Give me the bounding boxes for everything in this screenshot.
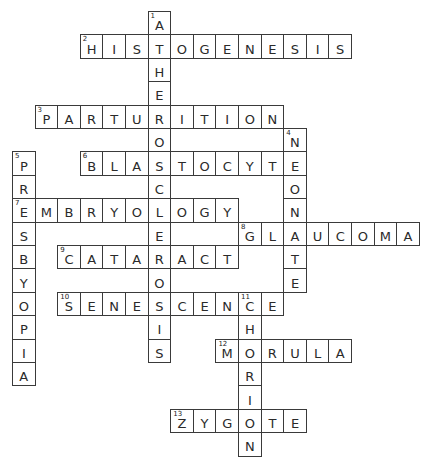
crossword-cell[interactable]: N	[238, 34, 262, 58]
crossword-cell[interactable]: E	[125, 292, 149, 316]
crossword-cell[interactable]: O	[170, 34, 194, 58]
crossword-cell[interactable]: S	[148, 292, 172, 316]
crossword-cell[interactable]: S	[283, 34, 307, 58]
crossword-cell[interactable]: S	[148, 151, 172, 175]
crossword-cell[interactable]: E	[283, 268, 307, 292]
crossword-cell[interactable]: U	[125, 105, 149, 129]
crossword-cell[interactable]: O	[351, 222, 375, 246]
crossword-cell[interactable]: G	[193, 34, 217, 58]
crossword-cell[interactable]: M	[374, 222, 398, 246]
crossword-cell[interactable]: N	[238, 432, 262, 456]
crossword-cell[interactable]: 10S	[57, 292, 81, 316]
crossword-cell[interactable]: O	[125, 198, 149, 222]
crossword-cell[interactable]: I	[102, 34, 126, 58]
crossword-cell[interactable]: 7E	[12, 198, 36, 222]
crossword-cell[interactable]: T	[193, 105, 217, 129]
crossword-cell[interactable]: B	[57, 198, 81, 222]
crossword-cell[interactable]: 1A	[148, 11, 172, 35]
crossword-cell[interactable]: E	[283, 151, 307, 175]
crossword-cell[interactable]: O	[148, 268, 172, 292]
crossword-cell[interactable]: O	[238, 409, 262, 433]
crossword-cell[interactable]: S	[125, 34, 149, 58]
crossword-cell[interactable]: E	[148, 81, 172, 105]
crossword-cell[interactable]: O	[148, 128, 172, 152]
crossword-cell[interactable]: A	[328, 339, 352, 363]
crossword-cell[interactable]: E	[261, 34, 285, 58]
crossword-cell[interactable]: A	[80, 245, 104, 269]
crossword-cell[interactable]: E	[80, 292, 104, 316]
crossword-cell[interactable]: I	[306, 34, 330, 58]
crossword-cell[interactable]: C	[193, 245, 217, 269]
crossword-cell[interactable]: E	[193, 292, 217, 316]
crossword-cell[interactable]: A	[170, 245, 194, 269]
crossword-cell[interactable]: I	[148, 315, 172, 339]
crossword-cell[interactable]: 6B	[80, 151, 104, 175]
crossword-cell[interactable]: C	[328, 222, 352, 246]
crossword-cell[interactable]: A	[125, 245, 149, 269]
crossword-cell[interactable]: L	[306, 339, 330, 363]
crossword-cell[interactable]: N	[102, 292, 126, 316]
crossword-cell[interactable]: R	[12, 175, 36, 199]
crossword-cell[interactable]: N	[261, 105, 285, 129]
crossword-cell[interactable]: M	[35, 198, 59, 222]
crossword-cell[interactable]: A	[125, 151, 149, 175]
crossword-cell[interactable]: G	[193, 198, 217, 222]
crossword-cell[interactable]: Y	[102, 198, 126, 222]
crossword-cell[interactable]: U	[283, 339, 307, 363]
crossword-cell[interactable]: C	[170, 292, 194, 316]
crossword-cell[interactable]: A	[396, 222, 420, 246]
crossword-cell[interactable]: O	[238, 339, 262, 363]
crossword-cell[interactable]: S	[12, 222, 36, 246]
crossword-cell[interactable]: H	[148, 58, 172, 82]
crossword-cell[interactable]: A	[57, 105, 81, 129]
crossword-cell[interactable]: B	[12, 245, 36, 269]
crossword-cell[interactable]: R	[80, 105, 104, 129]
crossword-cell[interactable]: P	[12, 315, 36, 339]
crossword-cell[interactable]: R	[261, 339, 285, 363]
crossword-cell[interactable]: U	[306, 222, 330, 246]
crossword-cell[interactable]: H	[238, 315, 262, 339]
crossword-cell[interactable]: I	[170, 105, 194, 129]
crossword-cell[interactable]: I	[12, 339, 36, 363]
crossword-cell[interactable]: I	[215, 105, 239, 129]
crossword-cell[interactable]: T	[102, 245, 126, 269]
crossword-cell[interactable]: A	[12, 362, 36, 386]
crossword-cell[interactable]: L	[148, 198, 172, 222]
crossword-cell[interactable]: L	[102, 151, 126, 175]
crossword-cell[interactable]: N	[215, 292, 239, 316]
crossword-cell[interactable]: 12M	[215, 339, 239, 363]
crossword-cell[interactable]: Y	[238, 151, 262, 175]
crossword-cell[interactable]: E	[215, 34, 239, 58]
crossword-cell[interactable]: A	[283, 222, 307, 246]
crossword-cell[interactable]: R	[148, 105, 172, 129]
crossword-cell[interactable]: N	[283, 198, 307, 222]
crossword-cell[interactable]: 11C	[238, 292, 262, 316]
crossword-cell[interactable]: T	[283, 245, 307, 269]
crossword-cell[interactable]: 9C	[57, 245, 81, 269]
crossword-cell[interactable]: Y	[215, 198, 239, 222]
crossword-cell[interactable]: E	[283, 409, 307, 433]
crossword-cell[interactable]: T	[261, 409, 285, 433]
crossword-cell[interactable]: S	[148, 339, 172, 363]
crossword-cell[interactable]: 13Z	[170, 409, 194, 433]
crossword-cell[interactable]: T	[102, 105, 126, 129]
crossword-cell[interactable]: T	[261, 151, 285, 175]
crossword-cell[interactable]: O	[283, 175, 307, 199]
crossword-cell[interactable]: E	[148, 222, 172, 246]
crossword-cell[interactable]: Y	[12, 268, 36, 292]
crossword-cell[interactable]: R	[80, 198, 104, 222]
crossword-cell[interactable]: 2H	[80, 34, 104, 58]
crossword-cell[interactable]: E	[261, 292, 285, 316]
crossword-cell[interactable]: O	[12, 292, 36, 316]
crossword-cell[interactable]: R	[238, 362, 262, 386]
crossword-cell[interactable]: C	[215, 151, 239, 175]
crossword-cell[interactable]: 5P	[12, 151, 36, 175]
crossword-cell[interactable]: C	[148, 175, 172, 199]
crossword-cell[interactable]: G	[215, 409, 239, 433]
crossword-cell[interactable]: 4N	[283, 128, 307, 152]
crossword-cell[interactable]: R	[148, 245, 172, 269]
crossword-cell[interactable]: L	[261, 222, 285, 246]
crossword-cell[interactable]: I	[238, 385, 262, 409]
crossword-cell[interactable]: T	[148, 34, 172, 58]
crossword-cell[interactable]: 3P	[35, 105, 59, 129]
